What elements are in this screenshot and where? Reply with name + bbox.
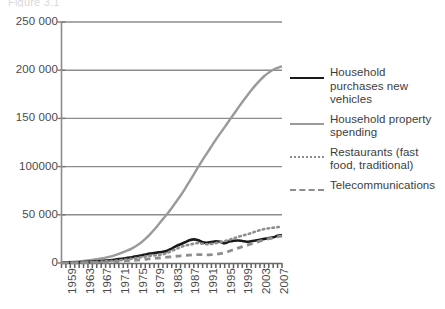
legend-item-label: Telecommunications [330,179,435,193]
x-axis-label: 1987 [189,268,201,294]
legend: Household purchases new vehiclesHousehol… [290,66,442,202]
x-axis-label: 1983 [172,268,184,294]
x-axis-label: 1959 [66,268,78,294]
y-axis-label: 150 000 [0,112,58,123]
legend-swatch-stroke [290,189,324,191]
legend-line-swatch-icon [290,70,324,83]
legend-item: Household purchases new vehicles [290,66,442,107]
legend-swatch-stroke [290,77,324,79]
y-axis-label: 0 [0,257,58,268]
y-axis-label: 200 000 [0,64,58,75]
legend-item: Telecommunications [290,179,442,196]
legend-item: Restaurants (fast food, traditional) [290,146,442,173]
y-axis-label: 50 000 [0,209,58,220]
x-axis-label: 1975 [137,268,149,294]
legend-swatch-stroke [290,156,324,158]
x-axis-label: 1967 [101,268,113,294]
legend-line-swatch-icon [290,117,324,130]
x-axis-label: 1963 [84,268,96,294]
legend-item-label: Household purchases new vehicles [330,66,442,107]
gridlines [62,22,283,215]
legend-item: Household property spending [290,113,442,140]
legend-line-swatch-icon [290,150,324,163]
y-axis-label: 100000 [0,161,58,172]
figure-line-chart: Figure 3.1 050 000100000150 000200 00025… [0,0,445,309]
data-series-layer [62,66,283,263]
y-axis-label: 250 000 [0,16,58,27]
x-axis-label: 1999 [242,268,254,294]
x-axis-label: 2003 [260,268,272,294]
legend-line-swatch-icon [290,183,324,196]
x-axis-label: 1995 [225,268,237,294]
legend-item-label: Restaurants (fast food, traditional) [330,146,442,173]
legend-swatch-stroke [290,123,324,125]
x-axis-label: 1991 [207,268,219,294]
x-axis-label: 1979 [154,268,166,294]
x-axis-label: 1971 [119,268,131,294]
legend-item-label: Household property spending [330,113,442,140]
x-axis-label: 2007 [278,268,290,294]
